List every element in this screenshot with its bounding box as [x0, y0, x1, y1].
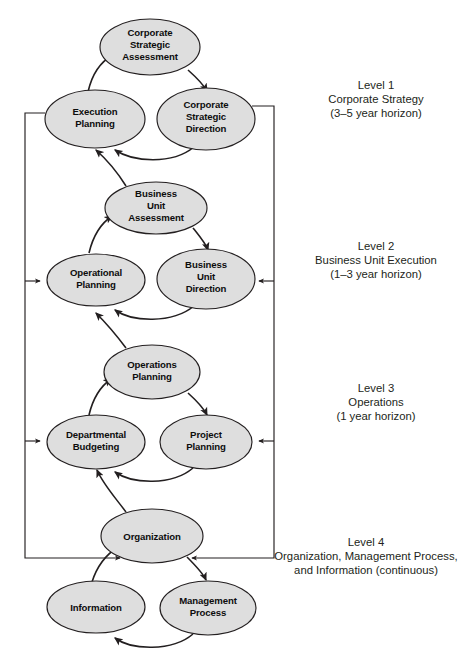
level-label-line: Level 2	[358, 240, 394, 252]
arrow-deptbud-to-opsplan	[89, 379, 111, 415]
node-text: Organization	[123, 531, 181, 542]
level-label-line: Corporate Strategy	[328, 93, 424, 105]
node-corporate-strategic-assessment[interactable]: Corporate Strategic Assessment	[100, 19, 200, 75]
node-departmental-budgeting[interactable]: Departmental Budgeting	[47, 415, 145, 469]
node-text: Project	[190, 429, 223, 440]
node-text: Planning	[75, 118, 115, 129]
arrow-opplan-to-bua	[89, 216, 112, 253]
node-text: Budgeting	[73, 441, 120, 452]
node-text: Assessment	[128, 212, 184, 223]
arrow-opsplan-to-projplan	[188, 393, 207, 415]
arrow-bud-to-opplan	[115, 306, 194, 319]
node-text: Process	[190, 607, 227, 618]
right-feedback-rail	[192, 106, 274, 558]
left-feedback-rail	[25, 113, 120, 558]
node-organization[interactable]: Organization	[101, 509, 203, 563]
node-text: Operational	[70, 267, 122, 278]
level-label-line: Level 1	[358, 79, 394, 91]
node-operational-planning[interactable]: Operational Planning	[47, 254, 145, 306]
node-text: Planning	[132, 371, 172, 382]
level-label-line: and Information (continuous)	[294, 564, 438, 576]
node-text: Management	[179, 595, 238, 606]
level-label-line: (1–3 year horizon)	[330, 268, 422, 280]
node-text: Assessment	[122, 51, 178, 62]
node-information[interactable]: Information	[47, 581, 145, 633]
node-text: Unit	[197, 271, 216, 282]
node-operations-planning[interactable]: Operations Planning	[104, 345, 200, 399]
level-label-3: Level 3 Operations (1 year horizon)	[336, 382, 415, 422]
node-business-unit-direction[interactable]: Business Unit Direction	[157, 249, 255, 309]
node-text: Execution	[73, 106, 118, 117]
level-label-4: Level 4 Organization, Management Process…	[274, 536, 457, 576]
node-text: Departmental	[66, 429, 126, 440]
node-text: Operations	[127, 359, 177, 370]
level-label-line: Operations	[348, 396, 404, 408]
level-label-line: Business Unit Execution	[315, 254, 437, 266]
node-text: Direction	[186, 283, 227, 294]
level-label-line: Level 3	[358, 382, 394, 394]
node-text: Planning	[186, 441, 226, 452]
node-text: Business	[135, 188, 177, 199]
arrow-projplan-to-deptbud	[115, 468, 193, 481]
level-label-1: Level 1 Corporate Strategy (3–5 year hor…	[328, 79, 424, 119]
strategic-planning-diagram: Corporate Strategic Assessment Execution…	[0, 0, 466, 663]
node-text: Strategic	[130, 39, 171, 50]
arrow-bua-to-bud	[193, 228, 208, 250]
level-label-line: Level 4	[348, 536, 384, 548]
arrow-opsplan-to-opplan	[96, 313, 126, 348]
level-label-2: Level 2 Business Unit Execution (1–3 yea…	[315, 240, 437, 280]
node-project-planning[interactable]: Project Planning	[160, 415, 252, 469]
node-text: Business	[185, 259, 227, 270]
arrow-bua-to-exec	[96, 150, 126, 186]
node-text: Unit	[147, 200, 166, 211]
arrow-mgmtproc-to-info	[115, 634, 193, 647]
node-business-unit-assessment[interactable]: Business Unit Assessment	[105, 182, 207, 234]
node-text: Information	[70, 602, 122, 613]
arrow-org-to-mgmtproc	[187, 557, 206, 580]
node-text: Corporate	[184, 99, 229, 110]
arrow-csd-to-exec	[115, 147, 194, 160]
cycle-diagram-canvas: Corporate Strategic Assessment Execution…	[0, 0, 466, 663]
node-text: Direction	[186, 123, 227, 134]
level-label-line: (3–5 year horizon)	[330, 107, 422, 119]
node-execution-planning[interactable]: Execution Planning	[45, 90, 145, 148]
level-label-line: (1 year horizon)	[336, 410, 415, 422]
node-text: Corporate	[128, 27, 173, 38]
node-text: Planning	[76, 279, 116, 290]
node-text: Strategic	[186, 111, 227, 122]
level-label-line: Organization, Management Process,	[274, 550, 457, 562]
node-management-process[interactable]: Management Process	[160, 581, 256, 635]
node-corporate-strategic-direction[interactable]: Corporate Strategic Direction	[157, 88, 255, 150]
